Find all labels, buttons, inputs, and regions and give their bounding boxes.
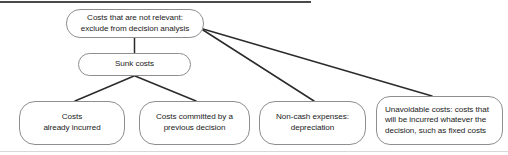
- node-sunk-costs-label: Sunk costs: [111, 59, 158, 70]
- bottom-rule-divider: [0, 151, 508, 152]
- node-costs-not-relevant[interactable]: Costs that are not relevant: exclude fro…: [66, 9, 204, 38]
- node-costs-already-incurred-label: Costs already incurred: [39, 112, 104, 133]
- node-non-cash-expenses[interactable]: Non-cash expenses: depreciation: [259, 101, 366, 145]
- node-non-cash-expenses-label: Non-cash expenses: depreciation: [272, 112, 353, 133]
- cost-classification-diagram: Costs that are not relevant: exclude fro…: [0, 0, 508, 155]
- connector-sunk-to-already-incurred: [75, 76, 134, 101]
- node-costs-committed-previous-decision-label: Costs committed by a previous decision: [152, 112, 237, 133]
- node-costs-already-incurred[interactable]: Costs already incurred: [19, 101, 125, 145]
- top-rule-divider: [0, 1, 311, 3]
- connector-root-to-unavoidable: [203, 29, 432, 96]
- node-costs-committed-previous-decision[interactable]: Costs committed by a previous decision: [139, 101, 250, 145]
- connector-sunk-to-committed: [135, 76, 196, 101]
- connector-root-to-non-cash: [203, 30, 314, 101]
- node-costs-not-relevant-label: Costs that are not relevant: exclude fro…: [77, 13, 193, 34]
- node-unavoidable-costs-label: Unavoidable costs: costs that will be in…: [377, 105, 493, 137]
- node-unavoidable-costs[interactable]: Unavoidable costs: costs that will be in…: [376, 96, 503, 145]
- node-sunk-costs[interactable]: Sunk costs: [78, 53, 191, 76]
